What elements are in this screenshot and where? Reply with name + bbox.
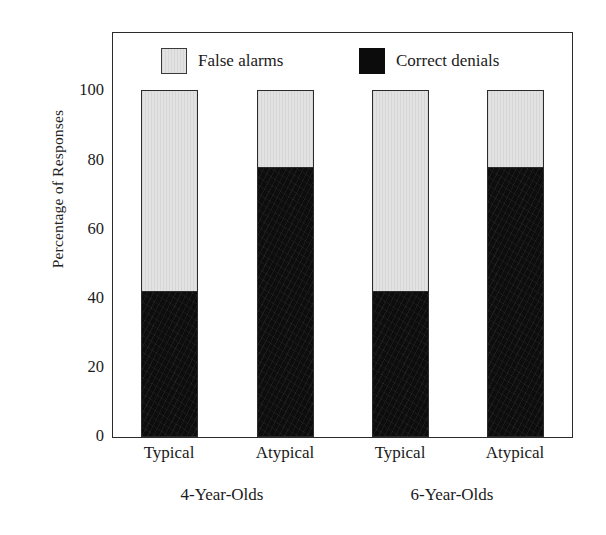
x-tick-label-typical-6yo: Typical	[345, 443, 455, 463]
y-tick-label-100: 100	[56, 80, 104, 100]
legend-label-false-alarms: False alarms	[198, 51, 283, 71]
bar-typical-6yo	[372, 90, 429, 437]
bar-typical-4yo	[141, 90, 198, 437]
bar-segment-correct-denials	[373, 291, 428, 436]
bar-atypical-6yo	[487, 90, 544, 437]
bar-segment-false-alarms	[258, 91, 313, 167]
bar-atypical-4yo	[257, 90, 314, 437]
x-tick-label-atypical-4yo: Atypical	[230, 443, 340, 463]
chart-legend: False alarms Correct denials	[161, 47, 531, 77]
group-label-4-year-olds: 4-Year-Olds	[127, 485, 317, 505]
bar-segment-correct-denials	[488, 167, 543, 436]
y-tick-label-20: 20	[56, 357, 104, 377]
gray-swatch-icon	[161, 48, 187, 74]
plot-area: False alarms Correct denials	[112, 32, 573, 438]
legend-label-correct-denials: Correct denials	[396, 51, 499, 71]
black-swatch-icon	[359, 48, 385, 74]
y-tick-label-0: 0	[56, 426, 104, 446]
x-tick-label-atypical-6yo: Atypical	[460, 443, 570, 463]
bar-segment-false-alarms	[373, 91, 428, 291]
bar-segment-correct-denials	[258, 167, 313, 436]
bar-segment-false-alarms	[488, 91, 543, 167]
bar-segment-correct-denials	[142, 291, 197, 436]
legend-entry-false-alarms: False alarms	[161, 47, 283, 75]
legend-entry-correct-denials: Correct denials	[359, 47, 499, 75]
group-label-6-year-olds: 6-Year-Olds	[357, 485, 547, 505]
y-tick-label-40: 40	[56, 288, 104, 308]
y-tick-label-80: 80	[56, 150, 104, 170]
bar-segment-false-alarms	[142, 91, 197, 291]
y-tick-label-60: 60	[56, 219, 104, 239]
stacked-bar-chart-figure: Percentage of Responses 100 80 60 40 20 …	[0, 0, 606, 535]
x-tick-label-typical-4yo: Typical	[114, 443, 224, 463]
